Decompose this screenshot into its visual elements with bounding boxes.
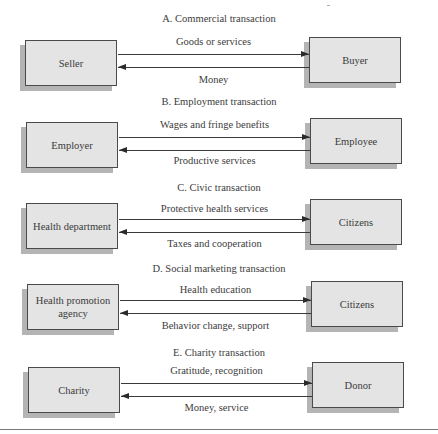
party-box-charity: Charity [28, 367, 120, 413]
arrow-left [119, 232, 310, 233]
party-box-employee: Employee [310, 118, 402, 164]
arrow-right [119, 137, 310, 138]
arrow-right [119, 219, 310, 220]
flow-label-bottom: Money [118, 74, 309, 86]
party-box-health-promotion-agency: Health promotion agency [27, 284, 119, 330]
arrow-left [121, 396, 312, 397]
arrowhead-right-icon [303, 297, 311, 303]
arrowhead-right-icon [301, 51, 309, 57]
arrowhead-right-icon [302, 134, 310, 140]
flow-label-top: Health education [120, 284, 311, 296]
arrowhead-left-icon [118, 64, 126, 70]
flow-label-bottom: Money, service [121, 402, 312, 414]
panel-title: E. Charity transaction [0, 347, 438, 359]
arrow-left [119, 150, 310, 151]
flow-label-bottom: Taxes and cooperation [119, 238, 310, 250]
bottom-rule-divider [0, 429, 438, 430]
panel-title: B. Employment transaction [0, 96, 438, 108]
party-box-health-department: Health department [26, 203, 118, 249]
arrow-right [118, 54, 309, 55]
party-box-donor: Donor [312, 362, 404, 408]
arrowhead-right-icon [304, 380, 312, 386]
party-box-employer: Employer [26, 122, 118, 168]
arrow-left [118, 67, 309, 68]
party-box-seller: Seller [25, 40, 117, 86]
panel-title: C. Civic transaction [0, 182, 438, 194]
party-box-citizens: Citizens [310, 199, 402, 245]
scan-artifact [327, 5, 330, 6]
arrowhead-left-icon [121, 393, 129, 399]
arrowhead-left-icon [120, 310, 128, 316]
flow-label-bottom: Productive services [119, 155, 310, 167]
panel-title: A. Commercial transaction [0, 13, 438, 25]
party-box-buyer: Buyer [309, 37, 401, 83]
arrow-right [120, 300, 311, 301]
arrowhead-left-icon [119, 229, 127, 235]
flow-label-top: Gratitude, recognition [121, 365, 312, 377]
arrowhead-right-icon [302, 216, 310, 222]
flow-label-top: Goods or services [118, 36, 309, 48]
arrow-left [120, 313, 311, 314]
panel-title: D. Social marketing transaction [0, 263, 438, 275]
flow-label-bottom: Behavior change, support [120, 320, 311, 332]
flow-label-top: Wages and fringe benefits [119, 119, 310, 131]
party-box-citizens: Citizens [311, 281, 403, 327]
arrow-right [121, 383, 312, 384]
arrowhead-left-icon [119, 147, 127, 153]
flow-label-top: Protective health services [119, 203, 310, 215]
